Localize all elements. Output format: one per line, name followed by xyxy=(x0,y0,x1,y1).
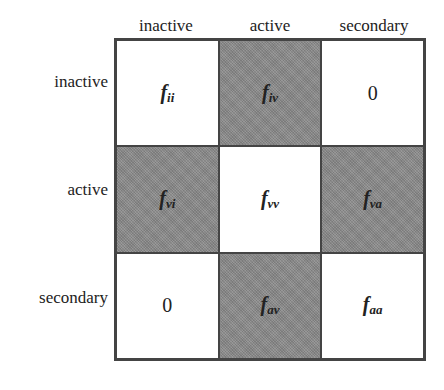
column-label-active: active xyxy=(218,16,322,36)
cell-secondary-active: fav xyxy=(219,253,322,359)
row-label-inactive: inactive xyxy=(0,72,108,92)
transition-matrix: fii fiv 0 fvi fvv fva 0 fav faa xyxy=(114,38,426,361)
cell-inactive-inactive: fii xyxy=(116,40,219,146)
column-label-secondary: secondary xyxy=(322,16,426,36)
cell-secondary-inactive: 0 xyxy=(116,253,219,359)
row-label-active: active xyxy=(0,180,108,200)
cell-active-secondary: fva xyxy=(321,146,424,252)
cell-active-active: fvv xyxy=(219,146,322,252)
row-label-secondary: secondary xyxy=(0,288,108,308)
cell-inactive-secondary: 0 xyxy=(321,40,424,146)
column-label-inactive: inactive xyxy=(114,16,218,36)
cell-secondary-secondary: faa xyxy=(321,253,424,359)
cell-inactive-active: fiv xyxy=(219,40,322,146)
cell-active-inactive: fvi xyxy=(116,146,219,252)
